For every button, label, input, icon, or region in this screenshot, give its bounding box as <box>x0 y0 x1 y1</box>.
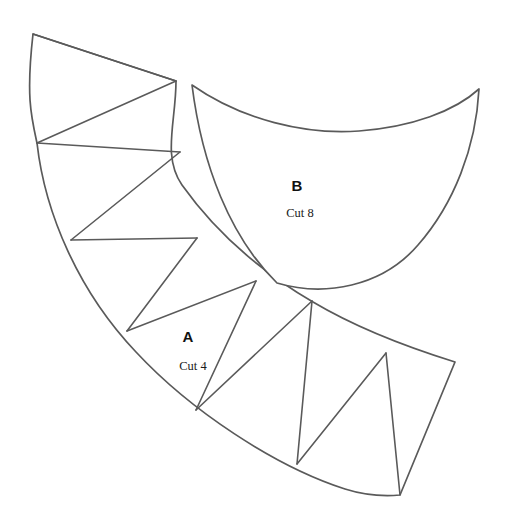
piece-b-cut-label: Cut 8 <box>286 206 313 220</box>
piece-b-letter: B <box>292 177 303 194</box>
pattern-canvas: A Cut 4 B Cut 8 <box>0 0 505 527</box>
piece-a-cut-label: Cut 4 <box>179 359 207 373</box>
piece-a-letter: A <box>183 328 194 345</box>
